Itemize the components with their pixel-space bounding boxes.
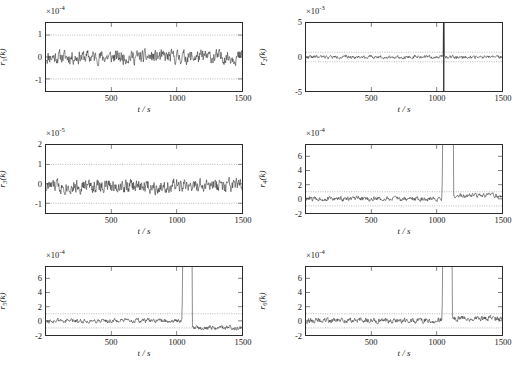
y-tick-label: -5 — [286, 88, 302, 97]
x-tick-label: 500 — [365, 94, 378, 103]
y-exponent-label-r1: ×10-4 — [46, 5, 65, 15]
y-axis-label-r3: r3(k) — [0, 171, 7, 188]
x-tick-label: 1500 — [235, 94, 252, 103]
x-tick-label: 1500 — [235, 216, 252, 225]
y-ticks-r2: -505 — [284, 22, 302, 92]
y-axis-label-r4: r4(k) — [258, 171, 267, 188]
plot-frame-r2 — [305, 22, 503, 92]
y-ticks-r5: -20246 — [24, 266, 42, 336]
y-tick-label: -2 — [26, 332, 42, 341]
y-tick-label: 0 — [26, 53, 42, 62]
panel-r3: ×10-5 r3(k) -1012 50010001500 t / s — [0, 122, 260, 244]
x-tick-label: 1500 — [235, 338, 252, 347]
plot-svg-r4 — [306, 145, 502, 213]
y-tick-label: 1 — [26, 160, 42, 169]
plot-svg-r1 — [46, 23, 242, 91]
y-tick-label: 0 — [286, 53, 302, 62]
plot-frame-r6 — [305, 266, 503, 336]
residual-signals-figure: ×10-4 r1(k) -101 50010001500 t / s ×10-3… — [0, 0, 520, 367]
panel-r1: ×10-4 r1(k) -101 50010001500 t / s — [0, 0, 260, 122]
y-tick-label: 2 — [26, 140, 42, 149]
y-tick-label: 6 — [286, 273, 302, 282]
y-tick-label: -1 — [26, 75, 42, 84]
residual-signal-line — [46, 48, 242, 66]
y-exponent-label-r6: ×10-4 — [306, 249, 325, 259]
x-tick-label: 1500 — [495, 338, 512, 347]
y-exponent-label-r3: ×10-5 — [46, 127, 65, 137]
x-tick-label: 1000 — [169, 216, 186, 225]
y-axis-label-r5: r5(k) — [0, 293, 7, 310]
residual-signal-line — [306, 267, 502, 324]
x-tick-label: 500 — [105, 216, 118, 225]
y-ticks-r3: -1012 — [24, 144, 42, 214]
y-tick-label: 0 — [286, 195, 302, 204]
y-tick-label: 4 — [286, 166, 302, 175]
plot-frame-r3 — [45, 144, 243, 214]
x-tick-label: 1500 — [495, 216, 512, 225]
y-tick-label: 2 — [286, 181, 302, 190]
y-tick-label: 6 — [26, 273, 42, 282]
x-tick-label: 1000 — [429, 216, 446, 225]
panel-r6: ×10-4 r6(k) -20246 50010001500 t / s — [260, 244, 520, 366]
x-tick-label: 1500 — [495, 94, 512, 103]
x-tick-label: 1000 — [429, 94, 446, 103]
x-tick-label: 1000 — [429, 338, 446, 347]
y-exponent-label-r4: ×10-4 — [306, 127, 325, 137]
y-exponent-label-r2: ×10-3 — [306, 5, 325, 15]
plot-svg-r5 — [46, 267, 242, 335]
y-axis-label-r2: r2(k) — [258, 49, 267, 66]
y-ticks-r1: -101 — [24, 22, 42, 92]
y-tick-label: 5 — [286, 18, 302, 27]
x-tick-label: 500 — [365, 216, 378, 225]
panel-r5: ×10-4 r5(k) -20246 50010001500 t / s — [0, 244, 260, 366]
y-tick-label: 1 — [26, 30, 42, 39]
plot-svg-r3 — [46, 145, 242, 213]
y-tick-label: 4 — [26, 288, 42, 297]
x-tick-label: 500 — [105, 338, 118, 347]
y-axis-label-r6: r6(k) — [258, 293, 267, 310]
x-axis-label-r5: t / s — [137, 349, 150, 358]
plot-frame-r1 — [45, 22, 243, 92]
y-tick-label: 0 — [26, 180, 42, 189]
x-axis-label-r6: t / s — [397, 349, 410, 358]
y-tick-label: 2 — [26, 303, 42, 312]
plot-svg-r6 — [306, 267, 502, 335]
x-tick-label: 500 — [105, 94, 118, 103]
panel-r2: ×10-3 r2(k) -505 50010001500 t / s — [260, 0, 520, 122]
y-tick-label: -1 — [26, 200, 42, 209]
residual-signal-line — [46, 177, 242, 195]
plot-frame-r4 — [305, 144, 503, 214]
y-ticks-r4: -20246 — [284, 144, 302, 214]
x-axis-label-r2: t / s — [397, 105, 410, 114]
y-exponent-label-r5: ×10-4 — [46, 249, 65, 259]
y-tick-label: 0 — [286, 317, 302, 326]
residual-signal-line — [306, 23, 502, 91]
plot-svg-r2 — [306, 23, 502, 91]
x-axis-label-r3: t / s — [137, 227, 150, 236]
x-axis-label-r4: t / s — [397, 227, 410, 236]
residual-signal-line — [46, 267, 242, 330]
y-tick-label: 4 — [286, 288, 302, 297]
residual-signal-line — [306, 145, 502, 202]
x-tick-label: 1000 — [169, 338, 186, 347]
y-tick-label: 0 — [26, 317, 42, 326]
x-axis-label-r1: t / s — [137, 105, 150, 114]
y-tick-label: -2 — [286, 332, 302, 341]
y-ticks-r6: -20246 — [284, 266, 302, 336]
y-tick-label: 2 — [286, 303, 302, 312]
y-tick-label: -2 — [286, 210, 302, 219]
plot-frame-r5 — [45, 266, 243, 336]
x-tick-label: 500 — [365, 338, 378, 347]
y-tick-label: 6 — [286, 151, 302, 160]
x-tick-label: 1000 — [169, 94, 186, 103]
panel-r4: ×10-4 r4(k) -20246 50010001500 t / s — [260, 122, 520, 244]
y-axis-label-r1: r1(k) — [0, 49, 7, 66]
